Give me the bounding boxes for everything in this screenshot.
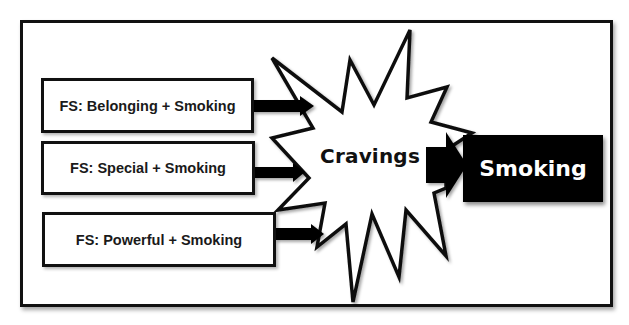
input-label-belonging: FS: Belonging + Smoking	[59, 98, 235, 114]
input-box-special: FS: Special + Smoking	[41, 141, 255, 195]
input-label-special: FS: Special + Smoking	[70, 160, 226, 176]
input-label-powerful: FS: Powerful + Smoking	[76, 232, 242, 248]
output-box-smoking: Smoking	[463, 135, 603, 202]
cravings-label: Cravings	[318, 144, 422, 168]
input-box-belonging: FS: Belonging + Smoking	[41, 78, 254, 133]
input-box-powerful: FS: Powerful + Smoking	[42, 212, 276, 267]
output-label-smoking: Smoking	[479, 156, 586, 181]
